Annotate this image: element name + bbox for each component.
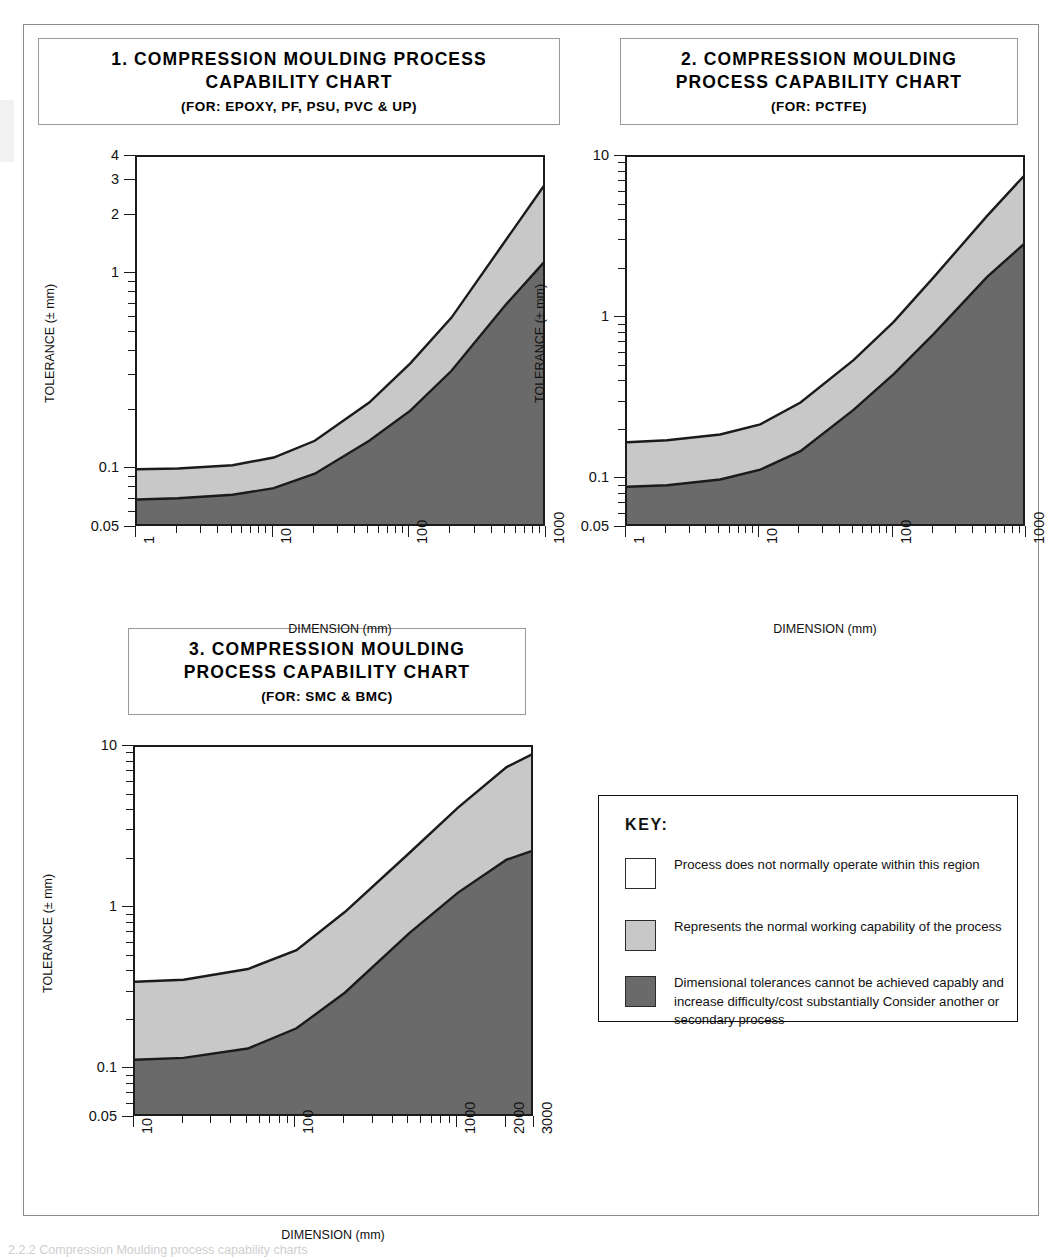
x-tick-minor [387, 526, 388, 533]
y-tick-major [124, 179, 135, 180]
x-tick-minor [200, 526, 201, 533]
chart-2-title-line-1: 2. COMPRESSION MOULDING [627, 48, 1011, 71]
key-label-none: Process does not normally operate within… [674, 856, 1024, 875]
x-tick-minor [886, 526, 887, 533]
chart-panel-3: 3. COMPRESSION MOULDING PROCESS CAPABILI… [128, 628, 526, 715]
x-tick-minor [258, 526, 259, 533]
y-tick-minor [126, 942, 133, 943]
x-tick-minor [879, 526, 880, 533]
y-tick-minor [126, 931, 133, 932]
x-axis-label: 10 [139, 1118, 155, 1134]
x-tick-minor [504, 526, 505, 533]
y-axis-label: 0.05 [67, 518, 119, 534]
y-tick-minor [126, 914, 133, 915]
x-tick-minor [217, 526, 218, 533]
y-axis-title: TOLERANCE (± mm) [533, 283, 547, 402]
x-tick-minor [539, 526, 540, 533]
y-axis-label: 4 [67, 147, 119, 163]
y-tick-minor [618, 341, 625, 342]
x-tick-major [758, 526, 759, 537]
x-tick-minor [420, 1116, 421, 1123]
x-tick-minor [259, 1116, 260, 1123]
x-tick-minor [524, 526, 525, 533]
x-tick-minor [395, 526, 396, 533]
y-tick-minor [126, 955, 133, 956]
chart-2-title-box: 2. COMPRESSION MOULDING PROCESS CAPABILI… [620, 38, 1018, 125]
y-tick-minor [128, 291, 135, 292]
y-axis-label: 0.1 [67, 459, 119, 475]
chart-2-subtitle: (FOR: PCTFE) [627, 99, 1011, 114]
x-tick-minor [985, 526, 986, 533]
y-tick-minor [618, 332, 625, 333]
x-tick-minor [402, 526, 403, 533]
y-tick-minor [126, 752, 133, 753]
y-tick-minor [126, 970, 133, 971]
chart-1-subtitle: (FOR: EPOXY, PF, PSU, PVC & UP) [45, 99, 553, 114]
key-label-normal: Represents the normal working capability… [674, 918, 1024, 937]
y-tick-minor [126, 1019, 133, 1020]
x-axis-label: 2000 [511, 1102, 527, 1134]
y-tick-major [124, 155, 135, 156]
x-tick-minor [1004, 526, 1005, 533]
x-tick-minor [1012, 526, 1013, 533]
page-edge-artifact [0, 100, 14, 162]
x-tick-minor [871, 526, 872, 533]
y-tick-minor [126, 1083, 133, 1084]
y-tick-minor [618, 204, 625, 205]
y-axis-label: 0.05 [65, 1108, 117, 1124]
y-axis-label: 0.1 [557, 469, 609, 485]
x-tick-minor [839, 526, 840, 533]
x-tick-minor [532, 526, 533, 533]
y-tick-minor [128, 476, 135, 477]
x-tick-minor [862, 526, 863, 533]
y-tick-major [124, 467, 135, 468]
y-tick-minor [126, 829, 133, 830]
y-tick-major [122, 1116, 133, 1117]
x-tick-major [533, 1116, 534, 1127]
chart-3-title-line-1: 3. COMPRESSION MOULDING [135, 638, 519, 661]
y-tick-minor [128, 486, 135, 487]
y-tick-major [614, 477, 625, 478]
x-tick-minor [407, 1116, 408, 1123]
x-tick-minor [798, 526, 799, 533]
x-axis-label: 10 [278, 528, 294, 544]
y-tick-minor [618, 493, 625, 494]
y-tick-minor [618, 162, 625, 163]
y-tick-minor [126, 809, 133, 810]
y-tick-minor [126, 991, 133, 992]
plot-frame-3 [133, 745, 533, 1116]
x-tick-minor [738, 526, 739, 533]
x-tick-major [272, 526, 273, 537]
x-tick-major [294, 1116, 295, 1127]
y-tick-minor [618, 219, 625, 220]
y-tick-minor [128, 409, 135, 410]
x-tick-minor [972, 526, 973, 533]
y-tick-minor [618, 365, 625, 366]
x-tick-major [1025, 526, 1026, 537]
chart-1-title-line-1: 1. COMPRESSION MOULDING PROCESS [45, 48, 553, 71]
y-axis-label: 2 [67, 206, 119, 222]
key-swatch-normal [625, 920, 656, 951]
x-tick-major [456, 1116, 457, 1127]
y-tick-major [614, 526, 625, 527]
x-tick-major [135, 526, 136, 537]
x-tick-minor [246, 1116, 247, 1123]
x-tick-minor [313, 526, 314, 533]
chart-panel-2: 2. COMPRESSION MOULDING PROCESS CAPABILI… [620, 38, 1018, 125]
x-tick-minor [440, 1116, 441, 1123]
area-bands-3 [135, 747, 533, 1116]
x-tick-minor [269, 1116, 270, 1123]
x-tick-minor [176, 526, 177, 533]
y-tick-minor [618, 268, 625, 269]
x-tick-minor [210, 1116, 211, 1123]
chart-3-subtitle: (FOR: SMC & BMC) [135, 689, 519, 704]
x-axis-label: 100 [898, 520, 914, 544]
x-tick-minor [392, 1116, 393, 1123]
y-axis-label: 3 [67, 171, 119, 187]
y-tick-minor [618, 401, 625, 402]
x-tick-minor [852, 526, 853, 533]
x-axis-label: 100 [300, 1110, 316, 1134]
plot-frame-1 [135, 155, 545, 526]
x-tick-major [892, 526, 893, 537]
y-tick-minor [128, 374, 135, 375]
